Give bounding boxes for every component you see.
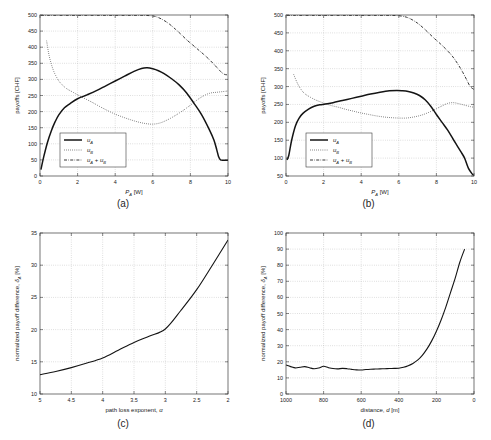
panel-a: 0246810050100150200250300350400450500PA … bbox=[0, 0, 245, 198]
panel-caption-b: (b) bbox=[246, 198, 491, 209]
xtick-label: 0 bbox=[473, 397, 476, 403]
ytick-label: 50 bbox=[277, 173, 283, 179]
curve-a-2 bbox=[41, 15, 228, 75]
axis-ticks-a: 0246810050100150200250300350400450500 bbox=[28, 12, 231, 185]
xtick-label: 2 bbox=[76, 179, 79, 185]
ytick-label: 450 bbox=[274, 30, 283, 36]
ytick-label: 100 bbox=[28, 141, 37, 147]
ytick-label: 200 bbox=[28, 109, 37, 115]
xtick-label: 800 bbox=[319, 397, 328, 403]
yaxis-label-c: normalized payoff difference, δA [%] bbox=[14, 266, 22, 361]
xtick-label: 200 bbox=[432, 397, 441, 403]
xtick-label: 0 bbox=[285, 179, 288, 185]
ytick-label: 300 bbox=[274, 84, 283, 90]
panel-d: 100080060040020000102030405060708090100d… bbox=[246, 218, 491, 416]
ytick-label: 400 bbox=[28, 44, 37, 50]
legend-b[interactable]: uAuBuA + uB bbox=[306, 133, 372, 167]
chart-c: 54.543.532.52101520253035path loss expon… bbox=[0, 218, 245, 416]
ytick-label: 50 bbox=[31, 157, 37, 163]
ytick-label: 20 bbox=[277, 359, 283, 365]
xtick-label: 4 bbox=[114, 179, 117, 185]
ytick-label: 0 bbox=[280, 391, 283, 397]
ytick-label: 500 bbox=[274, 12, 283, 18]
yaxis-label-b: payoffs [CHF] bbox=[260, 77, 266, 114]
curve-d-0 bbox=[286, 249, 465, 370]
xtick-label: 8 bbox=[189, 179, 192, 185]
panel-b: 024681050100150200250300350400450500PA [… bbox=[246, 0, 491, 198]
ytick-label: 450 bbox=[28, 28, 37, 34]
gridlines-c bbox=[40, 233, 228, 394]
ytick-label: 350 bbox=[28, 60, 37, 66]
xtick-label: 10 bbox=[471, 179, 477, 185]
xtick-label: 3 bbox=[164, 397, 167, 403]
panel-caption-a: (a) bbox=[0, 198, 246, 209]
xaxis-label-d: distance, d [m] bbox=[360, 407, 399, 413]
panel-c: 54.543.532.52101520253035path loss expon… bbox=[0, 218, 245, 416]
ytick-label: 100 bbox=[274, 230, 283, 236]
xtick-label: 3.5 bbox=[130, 397, 138, 403]
ytick-label: 150 bbox=[274, 137, 283, 143]
xtick-label: 10 bbox=[225, 179, 231, 185]
ytick-label: 40 bbox=[277, 327, 283, 333]
xtick-label: 2 bbox=[227, 397, 230, 403]
yaxis-label-d: normalized payoff difference, δA [%] bbox=[260, 266, 268, 361]
xtick-label: 5 bbox=[39, 397, 42, 403]
legend-a[interactable]: uAuBuA + uB bbox=[60, 133, 126, 167]
ytick-label: 15 bbox=[31, 359, 37, 365]
xtick-label: 1000 bbox=[280, 397, 292, 403]
ytick-label: 10 bbox=[31, 391, 37, 397]
ytick-label: 100 bbox=[274, 155, 283, 161]
ytick-label: 30 bbox=[31, 262, 37, 268]
xtick-label: 0 bbox=[39, 179, 42, 185]
ytick-label: 400 bbox=[274, 48, 283, 54]
xaxis-label-b: PA [W] bbox=[371, 189, 389, 197]
ytick-label: 60 bbox=[277, 294, 283, 300]
xtick-label: 4 bbox=[101, 397, 104, 403]
chart-b: 024681050100150200250300350400450500PA [… bbox=[246, 0, 491, 198]
axes-frame-d bbox=[286, 233, 474, 394]
ytick-label: 500 bbox=[28, 12, 37, 18]
axis-ticks-d: 100080060040020000102030405060708090100 bbox=[274, 230, 476, 403]
axis-ticks-b: 024681050100150200250300350400450500 bbox=[274, 12, 477, 185]
panel-caption-d: (d) bbox=[246, 418, 491, 429]
xtick-label: 600 bbox=[357, 397, 366, 403]
ytick-label: 30 bbox=[277, 343, 283, 349]
gridlines-d bbox=[286, 233, 474, 394]
xtick-label: 4 bbox=[360, 179, 363, 185]
figure-root: 0246810050100150200250300350400450500PA … bbox=[0, 0, 491, 440]
ytick-label: 25 bbox=[31, 294, 37, 300]
yaxis-label-a: payoffs [CHF] bbox=[14, 77, 20, 114]
xtick-label: 8 bbox=[435, 179, 438, 185]
ytick-label: 200 bbox=[274, 119, 283, 125]
chart-a: 0246810050100150200250300350400450500PA … bbox=[0, 0, 245, 198]
ytick-label: 350 bbox=[274, 66, 283, 72]
axis-ticks-c: 54.543.532.52101520253035 bbox=[31, 230, 230, 403]
xaxis-label-a: PA [W] bbox=[125, 189, 143, 197]
xtick-label: 400 bbox=[394, 397, 403, 403]
xtick-label: 4.5 bbox=[68, 397, 76, 403]
ytick-label: 10 bbox=[277, 375, 283, 381]
ytick-label: 150 bbox=[28, 125, 37, 131]
xtick-label: 2.5 bbox=[193, 397, 201, 403]
ytick-label: 300 bbox=[28, 76, 37, 82]
series-group-d bbox=[286, 249, 465, 370]
xtick-label: 6 bbox=[151, 179, 154, 185]
ytick-label: 35 bbox=[31, 230, 37, 236]
chart-d: 100080060040020000102030405060708090100d… bbox=[246, 218, 491, 416]
curve-b-1 bbox=[294, 74, 474, 118]
ytick-label: 250 bbox=[274, 101, 283, 107]
xaxis-label-c: path loss exponent, α bbox=[105, 407, 163, 413]
ytick-label: 20 bbox=[31, 327, 37, 333]
ytick-label: 80 bbox=[277, 262, 283, 268]
ytick-label: 70 bbox=[277, 278, 283, 284]
ytick-label: 90 bbox=[277, 246, 283, 252]
ytick-label: 0 bbox=[34, 173, 37, 179]
xtick-label: 2 bbox=[322, 179, 325, 185]
panel-caption-c: (c) bbox=[0, 418, 246, 429]
ytick-label: 250 bbox=[28, 93, 37, 99]
ytick-label: 50 bbox=[277, 311, 283, 317]
xtick-label: 6 bbox=[397, 179, 400, 185]
curve-b-2 bbox=[287, 15, 474, 89]
